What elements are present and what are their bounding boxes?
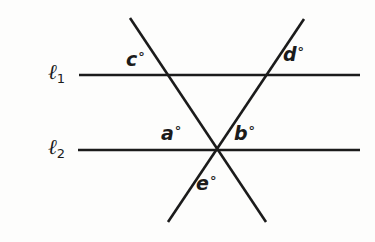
- degree-icon: °: [298, 44, 305, 59]
- geometry-diagram: ℓ1 ℓ2 c° d° a° b° e°: [0, 0, 375, 242]
- angle-label-d: d°: [283, 45, 304, 64]
- line-label-l2-glyph: ℓ: [48, 135, 57, 159]
- angle-label-e-letter: e: [196, 172, 209, 194]
- degree-icon: °: [138, 49, 145, 64]
- degree-icon: °: [210, 173, 217, 188]
- angle-label-a-letter: a: [161, 122, 174, 144]
- angle-label-c-letter: c: [126, 48, 137, 70]
- line-label-l1: ℓ1: [48, 62, 65, 85]
- line-label-l1-glyph: ℓ: [48, 60, 57, 84]
- line-label-l1-subscript: 1: [57, 71, 65, 86]
- angle-label-c: c°: [126, 50, 145, 69]
- angle-label-b-letter: b: [234, 122, 248, 144]
- angle-label-e: e°: [196, 174, 216, 193]
- degree-icon: °: [175, 123, 182, 138]
- angle-label-a: a°: [161, 124, 181, 143]
- diagram-canvas: [0, 0, 375, 242]
- line-label-l2: ℓ2: [48, 137, 65, 160]
- degree-icon: °: [249, 123, 256, 138]
- line-label-l2-subscript: 2: [57, 146, 65, 161]
- angle-label-d-letter: d: [283, 43, 297, 65]
- angle-label-b: b°: [234, 124, 255, 143]
